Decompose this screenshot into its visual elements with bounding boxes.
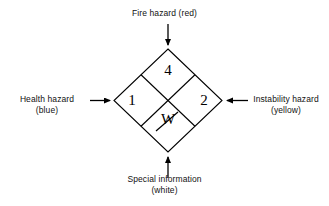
health-hazard-label: Health hazard (blue) xyxy=(8,94,86,116)
health-hazard-label-line2: (blue) xyxy=(8,105,86,116)
fire-hazard-label: Fire hazard (red) xyxy=(0,8,329,19)
health-hazard-rating: 1 xyxy=(122,93,142,108)
health-hazard-label-line1: Health hazard xyxy=(8,94,86,105)
nfpa-hazard-diamond-diagram: 4 1 2 W Fire hazard (red) Health hazard … xyxy=(0,0,329,206)
fire-hazard-label-line1: Fire hazard (red) xyxy=(0,8,329,19)
instability-hazard-label-line2: (yellow) xyxy=(246,105,326,116)
special-information-label: Special information (white) xyxy=(0,174,329,196)
instability-hazard-rating: 2 xyxy=(194,93,214,108)
instability-hazard-label-line1: Instability hazard xyxy=(246,94,326,105)
special-information-label-line1: Special information xyxy=(0,174,329,185)
fire-hazard-rating: 4 xyxy=(158,63,178,78)
special-information-label-line2: (white) xyxy=(0,185,329,196)
instability-hazard-label: Instability hazard (yellow) xyxy=(246,94,326,116)
special-information-symbol: W xyxy=(150,112,186,127)
